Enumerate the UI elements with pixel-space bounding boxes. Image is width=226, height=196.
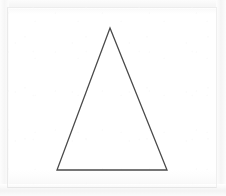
triangle-shape: [57, 28, 167, 170]
image-canvas: [0, 0, 226, 196]
triangle-figure: [0, 0, 226, 196]
